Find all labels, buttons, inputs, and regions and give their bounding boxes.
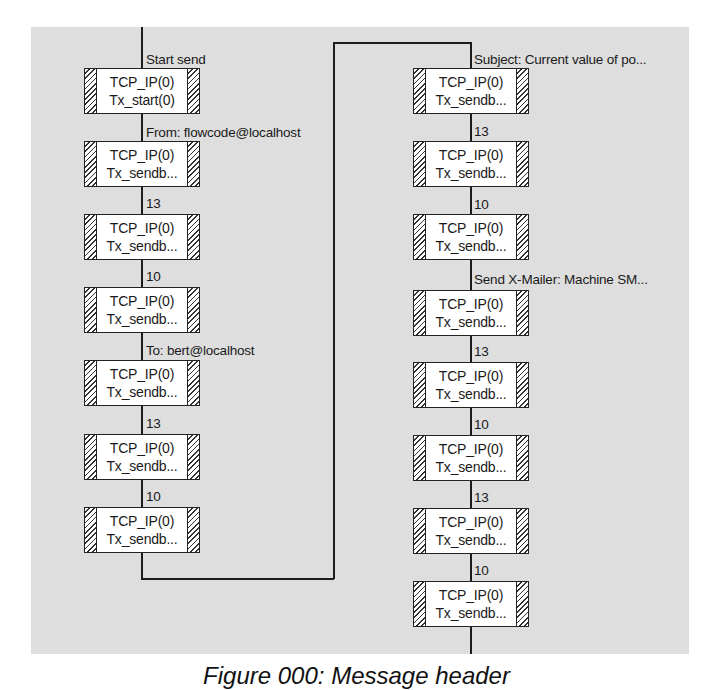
hatch-right-icon: [516, 436, 528, 480]
connector-label: 10: [146, 269, 161, 285]
hatch-right-icon: [516, 291, 528, 335]
connector-label: 10: [474, 563, 489, 579]
component-name: TCP_IP(0): [427, 367, 515, 385]
bottom-link-wire: [141, 578, 334, 580]
component-name: TCP_IP(0): [427, 586, 515, 604]
macro-name: Tx_sendb...: [427, 91, 515, 109]
macro-name: Tx_sendb...: [98, 457, 186, 475]
connector-label: Send X-Mailer: Machine SM...: [474, 272, 648, 288]
macro-block[interactable]: TCP_IP(0) Tx_sendb...: [413, 508, 529, 554]
flowchart-canvas: [31, 27, 689, 654]
connector-label: 13: [474, 344, 489, 360]
hatch-right-icon: [516, 363, 528, 407]
hatch-right-icon: [187, 508, 199, 552]
connector-label: To: bert@localhost: [146, 343, 254, 359]
top-link-wire: [333, 42, 471, 44]
hatch-left-icon: [414, 363, 426, 407]
hatch-left-icon: [85, 142, 97, 186]
macro-name: Tx_sendb...: [427, 604, 515, 622]
hatch-left-icon: [414, 436, 426, 480]
hatch-right-icon: [187, 435, 199, 479]
component-name: TCP_IP(0): [98, 512, 186, 530]
connector-label: 13: [474, 124, 489, 140]
hatch-left-icon: [414, 142, 426, 186]
macro-name: Tx_sendb...: [98, 237, 186, 255]
macro-name: Tx_sendb...: [427, 164, 515, 182]
mid-link-wire: [333, 42, 335, 579]
hatch-right-icon: [516, 582, 528, 626]
hatch-right-icon: [187, 142, 199, 186]
macro-block[interactable]: TCP_IP(0) Tx_sendb...: [413, 362, 529, 408]
macro-block[interactable]: TCP_IP(0) Tx_sendb...: [413, 581, 529, 627]
hatch-left-icon: [414, 69, 426, 113]
hatch-right-icon: [516, 142, 528, 186]
component-name: TCP_IP(0): [98, 219, 186, 237]
macro-name: Tx_sendb...: [98, 530, 186, 548]
macro-name: Tx_sendb...: [98, 383, 186, 401]
macro-block[interactable]: TCP_IP(0) Tx_sendb...: [413, 214, 529, 260]
macro-block[interactable]: TCP_IP(0) Tx_sendb...: [84, 287, 200, 333]
macro-block[interactable]: TCP_IP(0) Tx_sendb...: [413, 141, 529, 187]
hatch-right-icon: [516, 69, 528, 113]
macro-block[interactable]: TCP_IP(0) Tx_sendb...: [84, 434, 200, 480]
component-name: TCP_IP(0): [427, 146, 515, 164]
hatch-right-icon: [187, 288, 199, 332]
hatch-left-icon: [85, 435, 97, 479]
hatch-left-icon: [85, 361, 97, 405]
component-name: TCP_IP(0): [427, 73, 515, 91]
macro-block[interactable]: TCP_IP(0) Tx_sendb...: [84, 141, 200, 187]
macro-block[interactable]: TCP_IP(0) Tx_sendb...: [84, 360, 200, 406]
component-name: TCP_IP(0): [427, 440, 515, 458]
hatch-right-icon: [516, 509, 528, 553]
hatch-left-icon: [85, 215, 97, 259]
figure-caption: Figure 000: Message header: [0, 662, 713, 690]
macro-name: Tx_sendb...: [98, 310, 186, 328]
component-name: TCP_IP(0): [98, 439, 186, 457]
macro-block[interactable]: TCP_IP(0) Tx_sendb...: [413, 290, 529, 336]
hatch-left-icon: [414, 291, 426, 335]
hatch-left-icon: [414, 509, 426, 553]
right-column-wire: [470, 42, 472, 654]
component-name: TCP_IP(0): [98, 73, 186, 91]
hatch-right-icon: [187, 215, 199, 259]
connector-label: From: flowcode@localhost: [146, 125, 300, 141]
macro-block[interactable]: TCP_IP(0) Tx_sendb...: [84, 507, 200, 553]
macro-name: Tx_sendb...: [427, 385, 515, 403]
macro-block[interactable]: TCP_IP(0) Tx_sendb...: [413, 68, 529, 114]
hatch-left-icon: [414, 215, 426, 259]
macro-name: Tx_sendb...: [427, 458, 515, 476]
connector-label: 10: [474, 417, 489, 433]
hatch-right-icon: [516, 215, 528, 259]
hatch-left-icon: [85, 288, 97, 332]
component-name: TCP_IP(0): [427, 219, 515, 237]
macro-name: Tx_start(0): [98, 91, 186, 109]
component-name: TCP_IP(0): [427, 295, 515, 313]
macro-name: Tx_sendb...: [427, 313, 515, 331]
macro-block[interactable]: TCP_IP(0) Tx_start(0): [84, 68, 200, 114]
connector-label: Start send: [146, 52, 206, 68]
hatch-right-icon: [187, 361, 199, 405]
connector-label: 13: [474, 490, 489, 506]
macro-name: Tx_sendb...: [427, 531, 515, 549]
hatch-right-icon: [187, 69, 199, 113]
component-name: TCP_IP(0): [98, 146, 186, 164]
connector-label: 10: [146, 489, 161, 505]
component-name: TCP_IP(0): [427, 513, 515, 531]
connector-label: 13: [146, 416, 161, 432]
macro-block[interactable]: TCP_IP(0) Tx_sendb...: [84, 214, 200, 260]
hatch-left-icon: [414, 582, 426, 626]
connector-label: 13: [146, 196, 161, 212]
connector-label: Subject: Current value of po...: [474, 52, 646, 68]
component-name: TCP_IP(0): [98, 365, 186, 383]
hatch-left-icon: [85, 69, 97, 113]
macro-block[interactable]: TCP_IP(0) Tx_sendb...: [413, 435, 529, 481]
connector-label: 10: [474, 197, 489, 213]
hatch-left-icon: [85, 508, 97, 552]
macro-name: Tx_sendb...: [427, 237, 515, 255]
component-name: TCP_IP(0): [98, 292, 186, 310]
macro-name: Tx_sendb...: [98, 164, 186, 182]
